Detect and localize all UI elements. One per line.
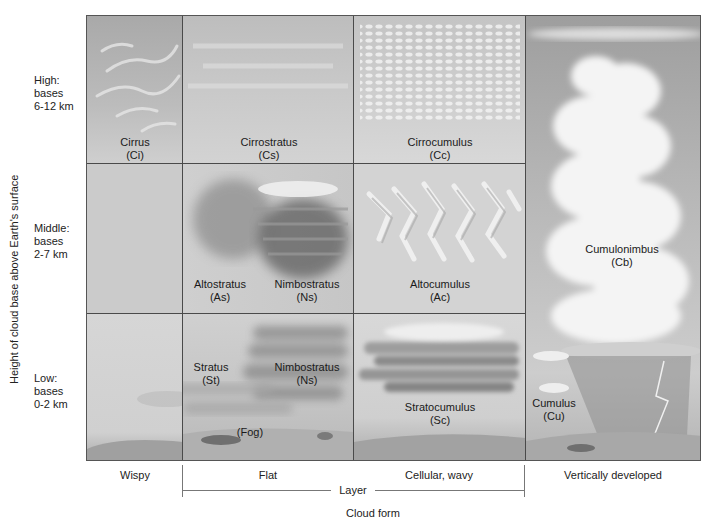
- cell-stratocumulus: [354, 314, 526, 461]
- cloud-abbr: (As): [194, 291, 246, 304]
- label-cumulonimbus: Cumulonimbus (Cb): [585, 243, 658, 269]
- grid-line: [87, 163, 526, 164]
- cloud-abbr: (Cb): [585, 256, 658, 269]
- cloud-abbr: (Sc): [405, 414, 475, 427]
- row-label-middle: Middle: bases 2-7 km: [34, 222, 88, 261]
- cloud-name: (Fog): [237, 426, 263, 439]
- cumulonimbus-illustration: [526, 16, 701, 461]
- y-axis-title: Height of cloud base above Earth's surfa…: [8, 184, 20, 384]
- cloud-name: Cirrus: [120, 136, 149, 149]
- cloud-name: Cumulus: [532, 397, 575, 410]
- cell-vertical: [526, 16, 701, 461]
- column-label-vertically-developed: Vertically developed: [564, 469, 662, 481]
- cell-stratus-nimbostratus: [183, 314, 354, 461]
- grid-line: [353, 16, 354, 461]
- row-label-line: High:: [34, 74, 88, 87]
- cloud-name: Stratus: [194, 361, 229, 374]
- cloud-name: Altostratus: [194, 278, 246, 291]
- cloud-abbr: (Ac): [410, 291, 470, 304]
- cloud-name: Cirrocumulus: [408, 136, 473, 149]
- layer-label: Layer: [339, 484, 367, 497]
- row-label-line: bases: [34, 385, 88, 398]
- label-stratocumulus: Stratocumulus (Sc): [405, 401, 475, 427]
- cloud-abbr: (St): [194, 374, 229, 387]
- row-label-line: Low:: [34, 372, 88, 385]
- cloud-abbr: (Ns): [275, 374, 340, 387]
- layer-bracket-line-right: [375, 490, 525, 491]
- stratocumulus-illustration: [354, 314, 526, 461]
- grid-line: [182, 16, 183, 461]
- label-stratus: Stratus (St): [194, 361, 229, 387]
- layer-bracket-right-tick: [524, 465, 525, 497]
- cloud-name: Cirrostratus: [241, 136, 298, 149]
- cell-wispy-middle: [87, 164, 183, 314]
- label-altocumulus: Altocumulus (Ac): [410, 278, 470, 304]
- label-cirrus: Cirrus (Ci): [120, 136, 149, 162]
- cloud-abbr: (Cu): [532, 410, 575, 423]
- cloud-name: Nimbostratus: [275, 361, 340, 374]
- layer-bracket-left-tick: [182, 465, 183, 497]
- label-nimbostratus-middle: Nimbostratus (Ns): [275, 278, 340, 304]
- row-label-line: 6-12 km: [34, 100, 88, 113]
- row-label-line: Middle:: [34, 222, 88, 235]
- label-altostratus: Altostratus (As): [194, 278, 246, 304]
- cell-wispy-low: [87, 314, 183, 461]
- grid-line: [525, 16, 526, 461]
- label-cirrocumulus: Cirrocumulus (Cc): [408, 136, 473, 162]
- stratus-nimbostratus-illustration: [183, 314, 354, 461]
- cloud-name: Altocumulus: [410, 278, 470, 291]
- column-label-cellular-wavy: Cellular, wavy: [405, 469, 473, 481]
- cloud-abbr: (Cc): [408, 149, 473, 162]
- cloud-name: Nimbostratus: [275, 278, 340, 291]
- grid-line: [87, 313, 526, 314]
- label-nimbostratus-low: Nimbostratus (Ns): [275, 361, 340, 387]
- label-cumulus: Cumulus (Cu): [532, 397, 575, 423]
- row-label-line: bases: [34, 87, 88, 100]
- row-label-low: Low: bases 0-2 km: [34, 372, 88, 411]
- column-label-flat: Flat: [259, 469, 277, 481]
- row-label-high: High: bases 6-12 km: [34, 74, 88, 113]
- cloud-classification-grid: Cirrus (Ci) Cirrostratus (Cs) Cirrocumul…: [86, 15, 701, 461]
- low-haze-illustration: [87, 314, 183, 461]
- cloud-name: Cumulonimbus: [585, 243, 658, 256]
- x-axis-title: Cloud form: [346, 507, 400, 520]
- cloud-abbr: (Ns): [275, 291, 340, 304]
- row-label-line: 0-2 km: [34, 398, 88, 411]
- column-label-wispy: Wispy: [120, 469, 150, 481]
- cloud-abbr: (Ci): [120, 149, 149, 162]
- row-label-line: bases: [34, 235, 88, 248]
- layer-bracket-line-left: [182, 490, 331, 491]
- cloud-name: Stratocumulus: [405, 401, 475, 414]
- cloud-abbr: (Cs): [241, 149, 298, 162]
- label-cirrostratus: Cirrostratus (Cs): [241, 136, 298, 162]
- row-label-line: 2-7 km: [34, 248, 88, 261]
- label-fog: (Fog): [237, 426, 263, 439]
